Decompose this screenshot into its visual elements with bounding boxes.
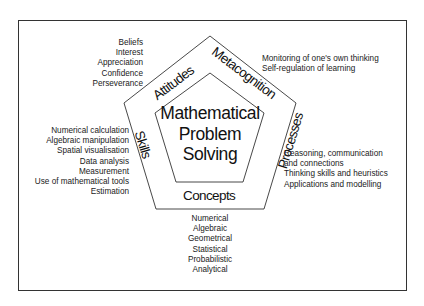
segment-label-concepts: Concepts (183, 188, 236, 203)
skills-item: Use of mathematical tools (35, 177, 129, 187)
skills-item: Numerical calculation (35, 126, 129, 136)
segment-label-skills: Skills (132, 129, 155, 161)
concepts-item: Statistical (160, 245, 260, 255)
skills-list: Numerical calculation Algebraic manipula… (35, 126, 129, 197)
center-title-line-3: Solving (156, 144, 264, 165)
segment-label-attitudes: Attitudes (150, 62, 197, 103)
processes-list: Reasoning, communication and connections… (284, 149, 388, 190)
skills-item: Estimation (35, 187, 129, 197)
processes-item: Thinking skills and heuristics (284, 169, 388, 179)
center-title: Mathematical Problem Solving (156, 103, 264, 165)
metacognition-item: Self-regulation of learning (262, 64, 379, 74)
attitudes-item: Confidence (92, 69, 143, 79)
processes-item: Reasoning, communication (284, 149, 388, 159)
attitudes-item: Interest (92, 48, 143, 58)
skills-item: Measurement (35, 167, 129, 177)
attitudes-item: Appreciation (92, 58, 143, 68)
attitudes-item: Perseverance (92, 79, 143, 89)
concepts-item: Geometrical (160, 234, 260, 244)
concepts-list: Numerical Algebraic Geometrical Statisti… (160, 214, 260, 275)
processes-item: and connections (284, 159, 388, 169)
skills-item: Spatial visualisation (35, 146, 129, 156)
concepts-item: Numerical (160, 214, 260, 224)
skills-item: Algebraic manipulation (35, 136, 129, 146)
concepts-item: Algebraic (160, 224, 260, 234)
center-title-line-2: Problem (156, 124, 264, 145)
concepts-item: Probabilistic (160, 255, 260, 265)
processes-item: Applications and modelling (284, 180, 388, 190)
attitudes-item: Beliefs (92, 38, 143, 48)
skills-item: Data analysis (35, 157, 129, 167)
concepts-item: Analytical (160, 265, 260, 275)
metacognition-item: Monitoring of one's own thinking (262, 54, 379, 64)
attitudes-list: Beliefs Interest Appreciation Confidence… (92, 38, 143, 89)
center-title-line-1: Mathematical (156, 103, 264, 124)
metacognition-list: Monitoring of one's own thinking Self-re… (262, 54, 379, 74)
